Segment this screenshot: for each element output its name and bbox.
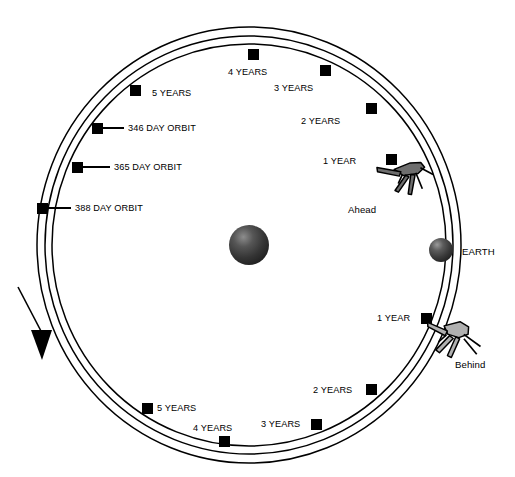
- marker-ahead-3y: [320, 65, 331, 76]
- label-ahead-1-year: 1 YEAR: [323, 157, 356, 166]
- label-ahead-3-years: 3 YEARS: [274, 84, 313, 93]
- marker-ahead-1y: [386, 154, 397, 165]
- marker-346-orbit: [92, 123, 103, 134]
- sun-sphere: [229, 225, 269, 265]
- orbit-diagram: 1 YEAR 2 YEARS 3 YEARS 4 YEARS 5 YEARS 1…: [0, 0, 515, 477]
- earth-label: EARTH: [462, 247, 495, 257]
- ahead-label: Ahead: [348, 205, 376, 215]
- label-365-day-orbit: 365 DAY ORBIT: [114, 163, 182, 172]
- label-behind-3-years: 3 YEARS: [261, 420, 300, 429]
- marker-behind-3y: [311, 419, 322, 430]
- marker-behind-5y: [142, 403, 153, 414]
- label-388-day-orbit: 388 DAY ORBIT: [75, 204, 143, 213]
- marker-behind-1y: [421, 313, 432, 324]
- label-behind-2-years: 2 YEARS: [313, 386, 352, 395]
- marker-behind-4y: [219, 436, 230, 447]
- orbit-direction-arrow: [18, 287, 52, 360]
- marker-ahead-2y: [366, 103, 377, 114]
- label-ahead-2-years: 2 YEARS: [301, 117, 340, 126]
- behind-label: Behind: [455, 360, 485, 370]
- label-behind-5-years: 5 YEARS: [157, 404, 196, 413]
- marker-365-orbit: [72, 162, 83, 173]
- marker-behind-2y: [366, 384, 377, 395]
- marker-ahead-4y: [248, 49, 259, 60]
- label-behind-1-year: 1 YEAR: [377, 314, 410, 323]
- earth-sphere: [429, 238, 453, 262]
- marker-388-orbit: [37, 203, 48, 214]
- label-ahead-4-years: 4 YEARS: [228, 68, 267, 77]
- label-ahead-5-years: 5 YEARS: [152, 89, 191, 98]
- ahead-spacecraft: [377, 160, 435, 199]
- marker-ahead-5y: [130, 85, 141, 96]
- label-behind-4-years: 4 YEARS: [193, 424, 232, 433]
- label-346-day-orbit: 346 DAY ORBIT: [128, 124, 196, 133]
